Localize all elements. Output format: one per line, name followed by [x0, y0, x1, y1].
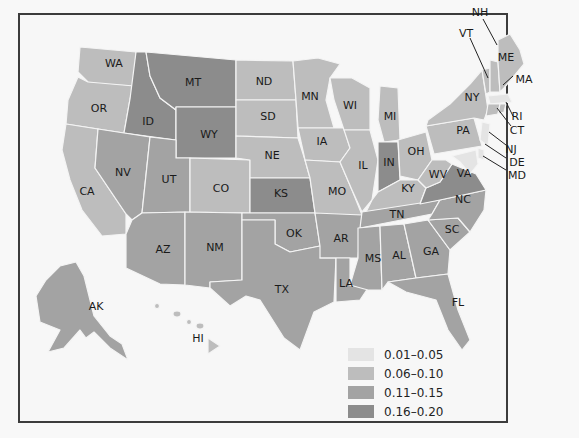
label-in: IN [383, 156, 394, 169]
label-oh: OH [408, 145, 425, 158]
label-nj: NJ [505, 143, 516, 156]
label-de: DE [509, 156, 524, 169]
label-ga: GA [423, 245, 440, 258]
label-tn: TN [389, 208, 405, 221]
label-ms: MS [365, 252, 381, 265]
legend-item: 0.16–0.20 [348, 402, 443, 421]
state-fl [388, 274, 470, 350]
label-la: LA [339, 277, 353, 290]
label-ne: NE [264, 149, 279, 162]
label-wv: WV [429, 168, 448, 181]
label-wy: WY [200, 128, 218, 141]
label-nc: NC [455, 193, 471, 206]
label-hi: HI [192, 332, 204, 345]
label-ks: KS [274, 187, 288, 200]
label-ar: AR [333, 232, 349, 245]
state-ma [488, 94, 512, 104]
label-tx: TX [274, 283, 290, 296]
label-md: MD [508, 169, 526, 182]
legend-item: 0.06–0.10 [348, 364, 443, 383]
legend-item: 0.01–0.05 [348, 345, 443, 364]
label-ca: CA [79, 185, 95, 198]
label-me: ME [498, 51, 514, 64]
label-nd: ND [256, 75, 273, 88]
label-ok: OK [286, 227, 303, 240]
label-nv: NV [115, 166, 131, 179]
label-mt: MT [185, 76, 201, 89]
state-ak [36, 262, 128, 360]
state-ri [498, 104, 506, 114]
label-wa: WA [105, 57, 123, 70]
label-fl: FL [452, 296, 465, 309]
label-sc: SC [445, 223, 460, 236]
state-de [478, 148, 484, 160]
label-il: IL [358, 159, 368, 172]
label-ia: IA [317, 135, 328, 148]
legend-swatch [348, 405, 374, 418]
legend-label: 0.06–0.10 [384, 367, 443, 381]
label-va: VA [457, 167, 472, 180]
label-pa: PA [456, 124, 470, 137]
state-hi [155, 304, 221, 355]
label-sd: SD [260, 110, 275, 123]
label-al: AL [392, 249, 407, 262]
label-ny: NY [465, 91, 480, 104]
label-ky: KY [401, 182, 415, 195]
label-id: ID [142, 115, 154, 128]
label-ma: MA [515, 73, 532, 86]
label-ut: UT [162, 173, 177, 186]
legend-label: 0.11–0.15 [384, 386, 443, 400]
legend-swatch [348, 348, 374, 361]
us-choropleth-map: WA OR CA ID NV MT WY UT CO AZ NM ND SD N… [0, 0, 579, 438]
legend-item: 0.11–0.15 [348, 383, 443, 402]
label-wi: WI [343, 99, 357, 112]
label-ak: AK [89, 300, 105, 313]
label-ct: CT [510, 124, 525, 137]
label-co: CO [213, 182, 230, 195]
label-nh: NH [472, 6, 489, 19]
legend-swatch [348, 386, 374, 399]
label-nm: NM [206, 241, 224, 254]
legend-swatch [348, 367, 374, 380]
label-ri: RI [512, 110, 523, 123]
legend-label: 0.16–0.20 [384, 405, 443, 419]
label-mn: MN [301, 90, 319, 103]
legend: 0.01–0.05 0.06–0.10 0.11–0.15 0.16–0.20 [348, 345, 443, 421]
label-mi: MI [384, 110, 397, 123]
label-or: OR [91, 102, 108, 115]
label-az: AZ [155, 243, 171, 256]
label-mo: MO [328, 185, 346, 198]
legend-label: 0.01–0.05 [384, 348, 443, 362]
label-vt: VT [459, 27, 474, 40]
